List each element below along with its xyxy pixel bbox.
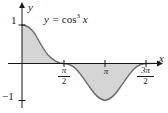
x-tick-label-3pi-half: 3π 2 [137, 66, 154, 86]
equation-lhs: y = [44, 13, 59, 25]
x-tick-label-pi-half: π 2 [58, 66, 70, 86]
cos-cubed-plot-figure: y x 1 −1 π 2 π 3π 2 y = cos3 x [0, 0, 168, 113]
equation-function-name: cos [62, 13, 77, 25]
y-axis-label: y [28, 2, 33, 13]
y-axis-arrowhead [19, 2, 25, 8]
y-tick-label-neg-1: −1 [2, 91, 14, 102]
x-axis-label: x [159, 53, 164, 64]
x-tick-label-pi: π [101, 66, 111, 76]
shaded-region-positive [22, 25, 64, 64]
x-tick-label-pi-half-numerator: π [58, 66, 70, 75]
x-tick-label-3pi-half-numerator: 3π [137, 66, 154, 75]
equation-variable: x [83, 13, 88, 25]
y-tick-label-1: 1 [11, 15, 17, 26]
curve-equation-label: y = cos3 x [44, 14, 88, 25]
x-tick-label-3pi-half-denominator: 2 [137, 77, 154, 86]
x-tick-label-pi-half-denominator: 2 [58, 77, 70, 86]
